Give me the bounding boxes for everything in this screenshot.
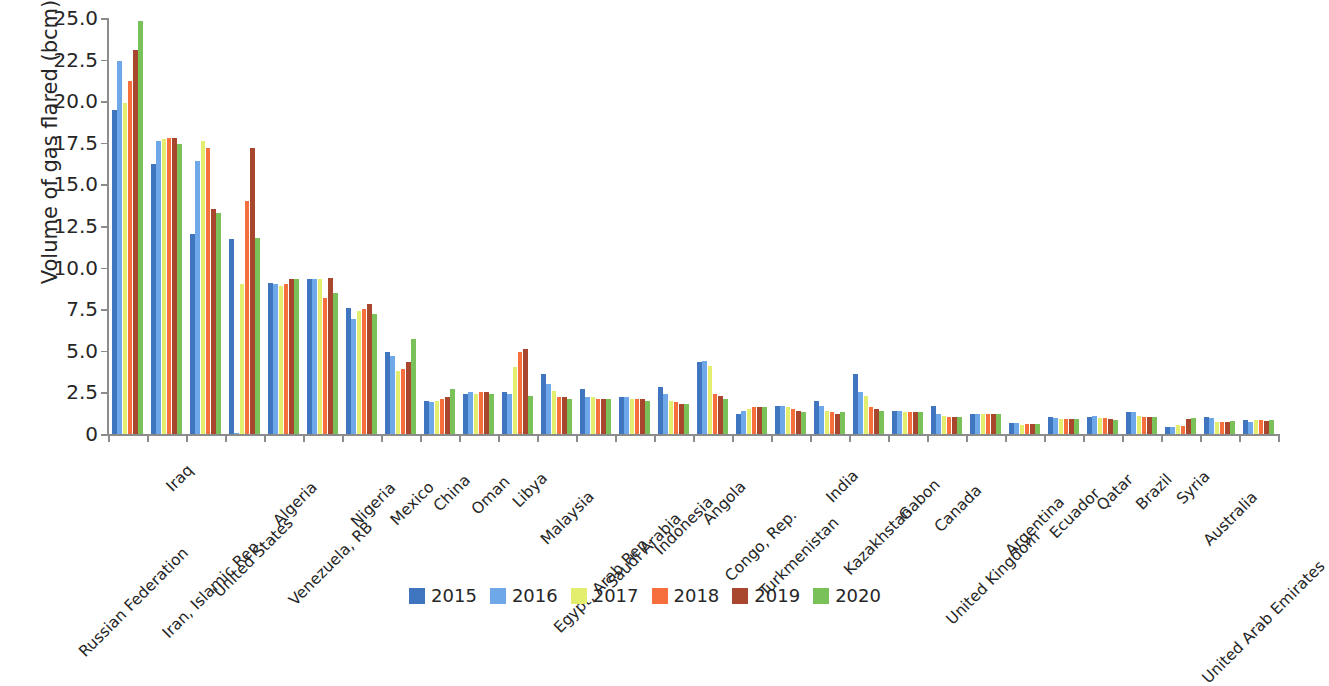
bar [372,314,377,434]
bar [1165,427,1170,434]
bar [1191,418,1196,434]
bar-group [693,18,732,434]
x-axis-category-label-text: United Arab Emirates [1198,557,1328,686]
bar [1230,421,1235,434]
bar [1142,417,1147,434]
bar-group [732,18,771,434]
bar [702,361,707,434]
bar [1069,419,1074,434]
x-axis-tick-mark [810,434,812,442]
bar-group [303,18,342,434]
legend-label: 2019 [754,585,800,606]
bar [1053,418,1058,434]
bar [1147,417,1152,434]
bar [190,234,195,434]
bar [786,407,791,434]
bar-group [537,18,576,434]
bar [518,352,523,434]
bar [138,21,143,434]
bar [1215,422,1220,434]
x-axis-tick-mark [459,434,461,442]
y-axis-tick-mark [101,268,108,270]
bar-group [810,18,849,434]
bar [1204,417,1209,434]
bar [840,412,845,434]
y-axis-tick-mark [101,60,108,62]
bar [1113,420,1118,434]
x-axis-tick-mark [381,434,383,442]
legend-entry[interactable]: 2016 [490,585,558,606]
x-axis-tick-mark [654,434,656,442]
bar [723,399,728,434]
x-axis-category-label: Malaysia [580,444,641,505]
legend-entry[interactable]: 2017 [571,585,639,606]
bar [892,411,897,434]
bar [1269,420,1274,434]
x-axis-tick-mark [264,434,266,442]
y-axis-tick-mark [101,351,108,353]
y-axis-tick-label: 15.0 [53,172,98,196]
y-axis-tick-label: 5.0 [66,339,98,363]
x-axis-tick-mark [771,434,773,442]
bar [752,407,757,434]
bar [596,399,601,434]
bar [819,406,824,434]
legend-entry[interactable]: 2020 [813,585,881,606]
bar [546,384,551,434]
bar [630,399,635,434]
legend-entry[interactable]: 2015 [409,585,477,606]
plot-area [108,18,1278,434]
bar [713,394,718,434]
bar [635,399,640,434]
bar-group [1161,18,1200,434]
bar [996,414,1001,434]
bar [684,404,689,434]
bar [1131,412,1136,434]
bar [1092,416,1097,434]
bar-group [1239,18,1278,434]
bar [528,396,533,434]
bar [741,411,746,434]
bar [357,311,362,434]
bar-group [1083,18,1122,434]
bar [474,394,479,434]
bar [429,402,434,434]
bar [663,394,668,434]
bar-group [264,18,303,434]
bar [801,412,806,434]
bar-group [1200,18,1239,434]
bar [1020,425,1025,434]
bar [1220,422,1225,434]
bar-group [771,18,810,434]
x-axis-tick-mark [186,434,188,442]
bar [908,412,913,434]
bar [367,304,372,434]
bar [606,399,611,434]
bar [1098,418,1103,434]
legend-swatch [409,588,425,604]
bar [1152,417,1157,434]
bar-group [381,18,420,434]
legend-entry[interactable]: 2018 [652,585,720,606]
bar [942,416,947,434]
bar [346,308,351,434]
legend-entry[interactable]: 2019 [732,585,800,606]
bar [1126,412,1131,434]
y-axis-tick-mark [101,101,108,103]
bar [1254,420,1259,434]
x-axis-tick-mark [693,434,695,442]
bar [869,407,874,434]
bar [580,389,585,434]
bar [401,369,406,434]
bar [151,164,156,434]
bar-group [108,18,147,434]
bar [591,397,596,434]
bar [435,401,440,434]
bar [619,397,624,434]
bar-group [225,18,264,434]
bar [1176,425,1181,434]
bar [562,397,567,434]
bar [918,412,923,434]
bar [128,81,133,434]
x-axis-tick-mark [1083,434,1085,442]
